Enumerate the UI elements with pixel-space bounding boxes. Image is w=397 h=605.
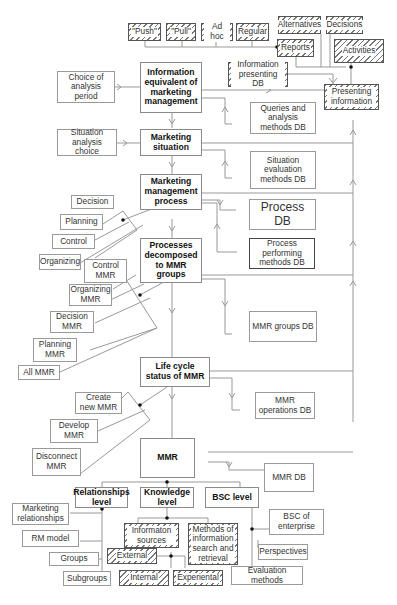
knowledge-level-label: Knowledge level [143,488,191,508]
organizing-mmr-box: Organizing MMR [69,284,112,306]
mmr-db-box: MMR DB [264,463,314,492]
planning-box: Planning [60,214,103,230]
groups-label: Groups [60,554,87,564]
control-box: Control [52,234,95,249]
process-methods-db-label: Process performing methods DB [252,239,312,268]
evaluation-methods-label: Evaluation methods [234,566,300,585]
decision-label: Decision [77,197,109,207]
marketing-relationships-label: Marketing relationships [15,504,66,523]
mmr-groups-db-label: MMR groups DB [252,322,313,332]
situation-choice-box: Situation analysis choice [57,129,117,156]
mm-process-label: Marketing management process [143,177,199,207]
marketing-situation-label: Marketing situation [143,133,199,153]
regular-label: Regular [237,27,268,37]
methods-search-label: Methods of information search and retrie… [191,525,235,563]
perspectives-label: Perspectives [259,547,307,557]
rm-model-label: RM model [32,534,70,544]
process-methods-db-box: Process performing methods DB [249,238,315,269]
organizing-mmr-label: Organizing MMR [70,285,110,304]
reports-label: Reports [280,43,311,53]
external-label: External [116,551,148,561]
activities-box: Activities [334,39,384,63]
disconnect-mmr-box: Disconnect MMR [32,448,81,476]
alternatives-box: Alternatives [278,16,321,34]
regular-box: Regular [236,23,269,41]
planning-label: Planning [65,217,97,227]
decision-mmr-label: Decision MMR [53,312,91,331]
rm-model-box: RM model [22,530,79,547]
evaluation-methods-box: Evaluation methods [231,566,303,585]
experiential-box: Experiental [173,570,223,586]
processes-decomposed-box: Processes decomposed to MMR groups [140,238,202,283]
presenting-info-label: Presenting information [327,87,376,106]
control-mmr-label: Control MMR [87,261,124,280]
choice-period-box: Choice of analysis period [57,71,115,103]
processes-decomposed-label: Processes decomposed to MMR groups [143,241,199,281]
bsc-enterprise-label: BSC of enterprise [272,512,321,531]
presenting-info-box: Presenting information [324,84,379,110]
process-db-label: Process DB [252,201,313,229]
situation-db-box: Situation evaluation methods DB [250,151,316,189]
reports-box: Reports [277,39,314,57]
alternatives-label: Alternatives [277,20,322,30]
groups-box: Groups [49,552,99,566]
experiential-label: Experiental [176,573,220,583]
planning-mmr-box: Planning MMR [33,338,77,362]
methods-search-box: Methods of information search and retrie… [188,523,238,565]
mmr-box: MMR [140,438,195,478]
subgroups-label: Subgroups [67,574,107,584]
all-mmr-box: All MMR [18,365,60,380]
develop-mmr-box: Develop MMR [50,419,98,443]
organizing-box: Organizing [39,254,81,270]
choice-period-label: Choice of analysis period [60,73,112,102]
life-cycle-box: Life cycle status of MMR [140,357,210,387]
bsc-level-box: BSC level [205,487,259,508]
process-db-box: Process DB [249,199,316,230]
mmr-operations-db-label: MMR operations DB [258,396,312,415]
mmr-operations-db-box: MMR operations DB [255,392,315,419]
decision-box: Decision [71,195,114,209]
knowledge-level-box: Knowledge level [140,487,194,508]
create-mmr-box: Create new MMR [75,392,122,414]
all-mmr-label: All MMR [23,368,54,378]
pull-box: "Pull" [166,23,196,41]
decisions-label: Decisions [326,20,364,30]
mmr-label: MMR [157,453,178,463]
mmr-groups-db-box: MMR groups DB [249,311,317,342]
push-label: "Push" [131,27,158,37]
organizing-label: Organizing [40,257,80,267]
relationships-level-label: Relationships level [73,488,129,508]
develop-mmr-label: Develop MMR [53,421,95,440]
mmr-db-label: MMR DB [272,473,306,483]
info-equivalent-label: Information equivalent of marketing mana… [143,68,199,108]
info-presenting-db-label: Information presenting DB [231,60,285,89]
info-presenting-db-box: Information presenting DB [228,62,288,87]
life-cycle-label: Life cycle status of MMR [143,362,207,382]
bsc-enterprise-box: BSC of enterprise [269,509,324,535]
situation-db-label: Situation evaluation methods DB [253,156,313,185]
adhoc-box: Ad hoc [201,23,233,41]
info-sources-label: Informaton sources [127,526,176,545]
queries-db-label: Queries and analysis methods DB [253,104,313,133]
mm-process-box: Marketing management process [140,174,202,210]
subgroups-box: Subgroups [63,571,111,586]
perspectives-box: Perspectives [258,544,308,560]
queries-db-box: Queries and analysis methods DB [250,102,316,134]
bsc-level-label: BSC level [212,493,252,503]
adhoc-label: Ad hoc [204,22,230,41]
info-sources-box: Informaton sources [124,523,179,548]
internal-box: Internal [119,570,169,586]
control-label: Control [60,237,87,247]
marketing-relationships-box: Marketing relationships [12,503,69,525]
decisions-box: Decisions [326,16,363,34]
marketing-situation-box: Marketing situation [140,129,202,156]
pull-label: "Pull" [170,27,192,37]
situation-choice-label: Situation analysis choice [60,128,114,157]
info-equivalent-box: Information equivalent of marketing mana… [140,62,202,113]
relationships-level-box: Relationships level [75,487,128,508]
disconnect-mmr-label: Disconnect MMR [35,452,78,471]
planning-mmr-label: Planning MMR [36,340,74,359]
control-mmr-box: Control MMR [84,259,127,283]
activities-label: Activities [342,46,377,56]
create-mmr-label: Create new MMR [78,393,119,412]
